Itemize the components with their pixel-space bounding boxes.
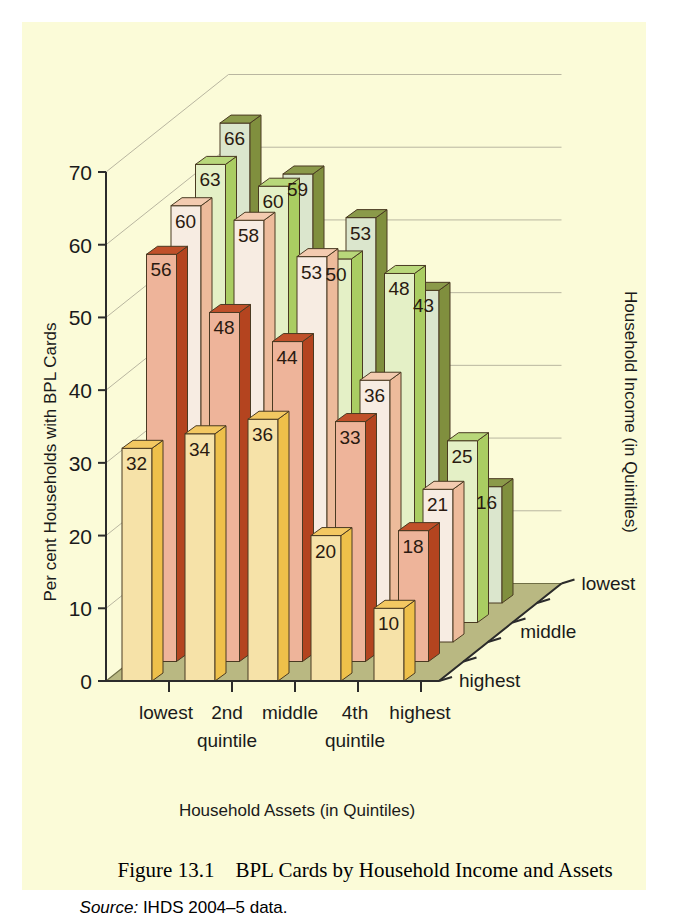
bar-value-lowest-2nd: 59 — [287, 179, 308, 200]
bar-side — [502, 479, 513, 603]
figure-source: Source: IHDS 2004–5 data. — [44, 880, 288, 917]
bar-chart-3d: 6659534316636050482560585336215648443318… — [22, 22, 646, 890]
bar-side — [152, 440, 163, 681]
bar-value-2nd-4th: 48 — [389, 278, 410, 299]
bar-value-middle-2nd: 58 — [238, 225, 259, 246]
figure-title: BPL Cards by Household Income and Assets — [235, 858, 612, 882]
bar-value-middle-middle: 53 — [301, 262, 322, 283]
y-tick-label-10: 10 — [69, 597, 92, 620]
y-tick-label-60: 60 — [69, 234, 92, 257]
bar-value-middle-highest: 21 — [427, 494, 448, 515]
bar-value-4th-highest: 18 — [403, 536, 424, 557]
x-tick-label-4th: 4th — [342, 702, 368, 723]
bar-value-4th-2nd: 48 — [214, 317, 235, 338]
y-tick-label-40: 40 — [69, 379, 92, 402]
source-value: IHDS 2004–5 data. — [143, 898, 288, 917]
bar-value-4th-lowest: 56 — [151, 259, 172, 280]
bar-value-2nd-lowest: 63 — [200, 169, 221, 190]
bar-value-4th-middle: 44 — [277, 347, 299, 368]
bar-face — [185, 434, 215, 681]
x-tick-sublabel-0: quintile — [197, 730, 257, 751]
bar-highest-middle — [248, 411, 289, 681]
source-key: Source: — [80, 898, 139, 917]
bar-side — [278, 411, 289, 681]
z-tick-label-middle: middle — [520, 621, 576, 642]
bar-value-lowest-highest: 16 — [476, 492, 497, 513]
bar-value-lowest-lowest: 66 — [224, 128, 245, 149]
bar-value-lowest-middle: 53 — [350, 223, 371, 244]
bar-side — [429, 523, 440, 662]
bar-face — [122, 448, 152, 681]
bar-highest-lowest — [122, 440, 163, 681]
y-tick-label-20: 20 — [69, 525, 92, 548]
bar-side — [478, 433, 489, 623]
bar-value-highest-2nd: 34 — [189, 439, 211, 460]
bar-value-highest-highest: 10 — [378, 613, 399, 634]
x-tick-sublabel-1: quintile — [325, 730, 385, 751]
x-axis-title: Household Assets (in Quintiles) — [179, 801, 415, 820]
bar-value-highest-middle: 36 — [252, 424, 273, 445]
bar-side — [215, 426, 226, 681]
figure-plate: 6659534316636050482560585336215648443318… — [22, 22, 646, 890]
z-tick-label-highest: highest — [459, 670, 521, 691]
bar-value-lowest-4th: 43 — [413, 295, 434, 316]
bar-side — [341, 528, 352, 681]
x-tick-label-lowest: lowest — [139, 702, 194, 723]
bar-value-highest-lowest: 32 — [126, 453, 147, 474]
bar-value-middle-lowest: 60 — [175, 211, 196, 232]
bar-value-4th-4th: 33 — [340, 427, 361, 448]
x-tick-label-middle: middle — [262, 702, 318, 723]
bar-value-2nd-middle: 50 — [326, 264, 347, 285]
y-tick-label-70: 70 — [69, 161, 92, 184]
bar-side — [404, 600, 415, 681]
z-axis-title: Household Income (in Quintiles) — [621, 291, 640, 533]
y-axis-title: Per cent Households with BPL Cards — [41, 322, 60, 601]
y-tick-label-50: 50 — [69, 306, 92, 329]
bar-face — [248, 419, 278, 681]
z-tick-label-lowest: lowest — [582, 573, 637, 594]
bar-highest-2nd — [185, 426, 226, 681]
bar-value-2nd-2nd: 60 — [263, 191, 284, 212]
bar-value-2nd-highest: 25 — [452, 446, 473, 467]
bar-value-highest-4th: 20 — [315, 541, 336, 562]
figure-number: Figure 13.1 — [118, 858, 215, 882]
bar-value-middle-4th: 36 — [364, 385, 385, 406]
x-tick-label-highest: highest — [389, 702, 451, 723]
y-tick-label-30: 30 — [69, 452, 92, 475]
y-tick-label-0: 0 — [80, 670, 92, 693]
bar-side — [453, 481, 464, 642]
x-tick-label-2nd: 2nd — [211, 702, 243, 723]
caption-gap — [214, 858, 235, 882]
